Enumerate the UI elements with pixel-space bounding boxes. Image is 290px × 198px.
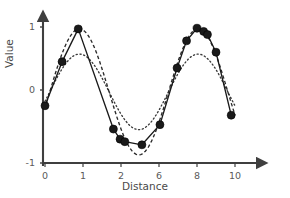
- data-point-marker: [173, 64, 181, 72]
- x-tick-label-8: 8: [194, 171, 200, 181]
- x-tick-label-1: 1: [80, 171, 86, 181]
- x-tick-label-10: 10: [229, 171, 241, 181]
- x-axis-title: Distance: [0, 181, 290, 192]
- data-point-marker: [156, 121, 164, 129]
- y-tick-label-1: 1: [20, 22, 35, 32]
- y-tick-label-neg1: -1: [16, 158, 35, 168]
- data-point-marker: [58, 58, 66, 66]
- data-point-marker: [138, 141, 146, 149]
- y-tick-label-0: 0: [20, 85, 35, 95]
- data-point-marker: [121, 138, 129, 146]
- data-point-marker: [212, 48, 220, 56]
- data-point-marker: [183, 37, 191, 45]
- x-tick-label-0: 0: [42, 171, 48, 181]
- y-axis-title: Value: [4, 39, 15, 68]
- data-point-marker: [74, 25, 82, 33]
- close-fit-curve: [45, 29, 235, 155]
- smooth-fit-curve: [45, 54, 235, 130]
- data-point-marker: [227, 111, 235, 119]
- chart-figure: 1 0 -1 0 1 2 6 8 10 Distance Value: [0, 0, 290, 198]
- data-point-marker: [41, 102, 49, 110]
- data-point-marker: [203, 31, 211, 39]
- observed-data-line: [45, 28, 231, 145]
- data-point-marker: [109, 125, 117, 133]
- chart-plot-area: [0, 0, 290, 198]
